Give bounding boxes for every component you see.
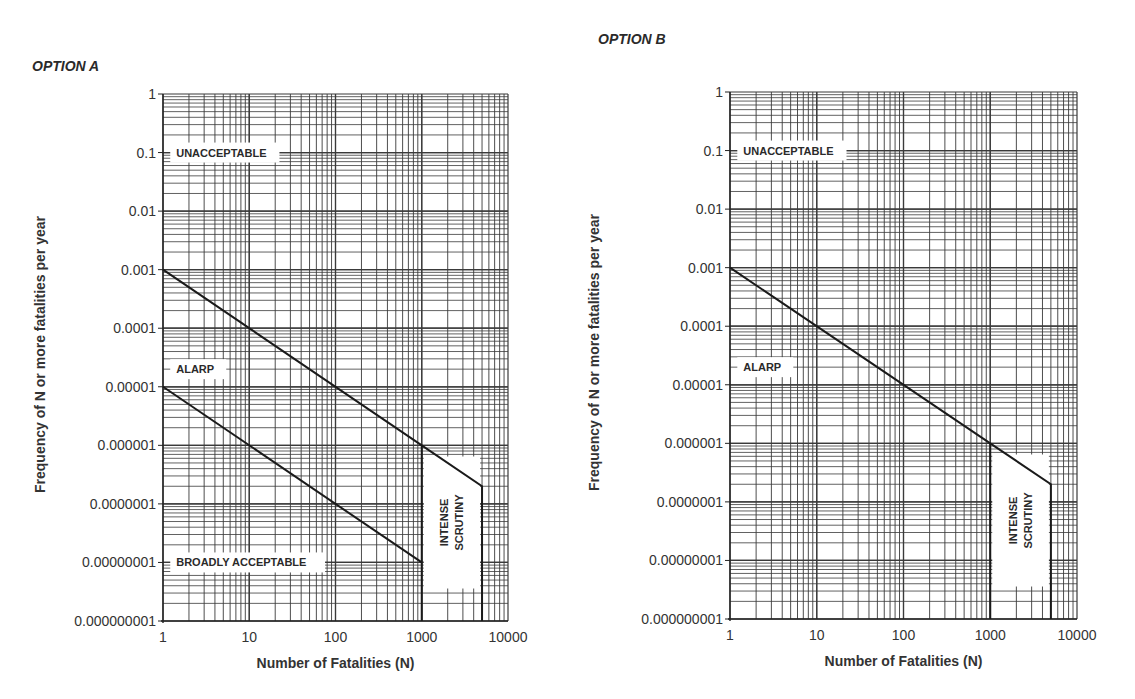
y-tick-label: 0.000001 [665, 435, 724, 451]
y-tick-label: 1 [715, 84, 723, 100]
y-tick-label: 0.01 [696, 201, 723, 217]
y-tick-label: 0.0000001 [657, 494, 723, 510]
region-label-alarp: ALARP [743, 361, 781, 373]
intense-label: INTENSE [1007, 497, 1019, 545]
y-tick-label: 0.00001 [672, 377, 723, 393]
region-label-unacceptable: UNACCEPTABLE [743, 145, 833, 157]
x-tick-label: 1000 [975, 627, 1006, 643]
x-tick-label: 10000 [1058, 627, 1097, 643]
x-axis-label: Number of Fatalities (N) [825, 653, 983, 669]
y-axis-label: Frequency of N or more fatalities per ye… [586, 213, 602, 491]
scrutiny-label: SCRUTINY [1022, 492, 1034, 549]
x-tick-label: 100 [892, 627, 916, 643]
y-tick-label: 0.001 [688, 260, 723, 276]
intense-scrutiny-box [992, 455, 1049, 587]
x-tick-label: 1 [726, 627, 734, 643]
y-tick-label: 0.1 [704, 143, 724, 159]
y-tick-label: 0.000000001 [641, 611, 723, 627]
y-tick-label: 0.00000001 [649, 552, 723, 568]
y-tick-label: 0.0001 [680, 318, 723, 334]
x-tick-label: 10 [809, 627, 825, 643]
fn-chart-option-b: UNACCEPTABLEALARPINTENSESCRUTINY10.10.01… [0, 0, 1135, 699]
